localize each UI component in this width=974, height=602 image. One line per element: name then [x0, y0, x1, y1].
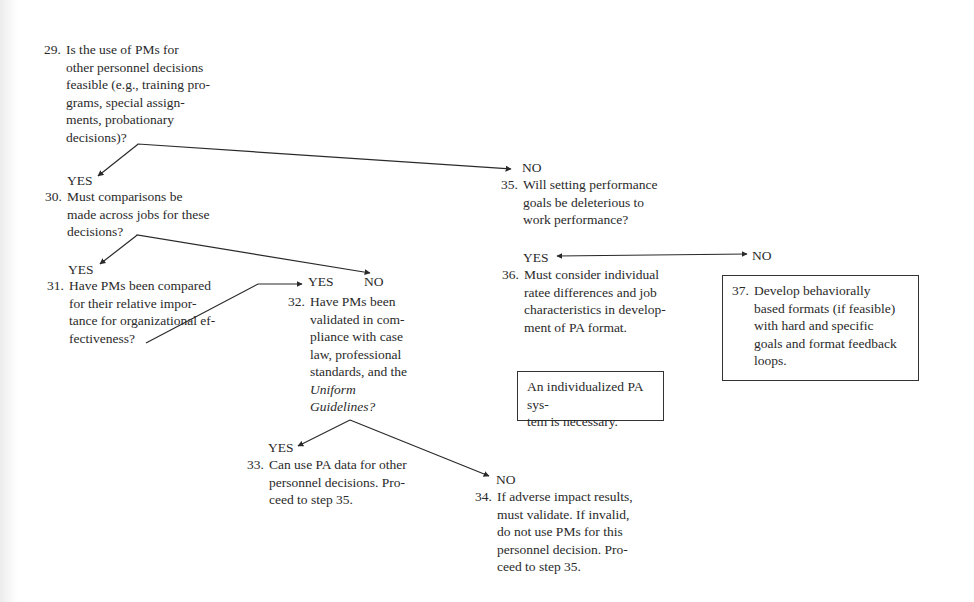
note-text: An individualized PA sys- tem is necessa…: [527, 378, 654, 431]
step-text: Will setting performance goals be delete…: [523, 176, 657, 229]
step-text: Have PMs been validated in com- pliance …: [310, 293, 407, 381]
yes-label-29: YES: [67, 173, 93, 189]
step-text: Have PMs been compared for their relativ…: [69, 277, 215, 347]
arrow-29-yes: [98, 145, 137, 176]
arrow-32-yes: [298, 420, 350, 446]
step-text: Can use PA data for other personnel deci…: [269, 456, 407, 509]
step-text: Must consider individual ratee differenc…: [524, 266, 666, 336]
step-number: 33.: [247, 456, 264, 474]
step-number: 37.: [732, 282, 749, 300]
yes-label-31: YES: [308, 274, 334, 290]
step-29-question: 29. Is the use of PMs for other personne…: [66, 41, 210, 146]
step-number: 29.: [44, 41, 61, 59]
step-text-italic: Uniform Guidelines?: [310, 381, 407, 416]
step-32-question: 32. Have PMs been validated in com- plia…: [310, 293, 407, 416]
no-label-30: NO: [364, 274, 384, 290]
step-number: 31.: [47, 277, 64, 295]
step-number: 30.: [45, 188, 62, 206]
no-label-32: NO: [496, 472, 516, 488]
individualized-pa-note-box: An individualized PA sys- tem is necessa…: [517, 371, 664, 421]
step-text: If adverse impact results, must validate…: [497, 488, 633, 576]
step-33-outcome: 33. Can use PA data for other personnel …: [269, 456, 407, 509]
step-number: 36.: [502, 266, 519, 284]
step-number: 35.: [501, 176, 518, 194]
arrow-35-yes-no: [557, 254, 747, 256]
step-number: 34.: [475, 488, 492, 506]
yes-label-32: YES: [268, 440, 294, 456]
step-text: Must comparisons be made across jobs for…: [67, 188, 209, 241]
step-text: Develop behaviorally based formats (if f…: [732, 282, 909, 370]
step-35-question: 35. Will setting performance goals be de…: [523, 176, 657, 229]
arrow-30-no: [136, 235, 370, 273]
yes-label-35: YES: [523, 250, 549, 266]
no-label-29: NO: [522, 160, 542, 176]
yes-label-30: YES: [68, 262, 94, 278]
no-label-35: NO: [752, 248, 772, 264]
step-36-outcome: 36. Must consider individual ratee diffe…: [524, 266, 666, 336]
step-30-question: 30. Must comparisons be made across jobs…: [67, 188, 209, 241]
step-37-outcome-box: 37. Develop behaviorally based formats (…: [722, 275, 919, 381]
step-text: Is the use of PMs for other personnel de…: [66, 41, 210, 146]
page-edge-shadow: [0, 0, 18, 602]
step-31-question: 31. Have PMs been compared for their rel…: [69, 277, 215, 347]
step-34-outcome: 34. If adverse impact results, must vali…: [497, 488, 633, 576]
step-number: 32.: [288, 293, 305, 311]
arrow-29-no: [137, 144, 511, 169]
